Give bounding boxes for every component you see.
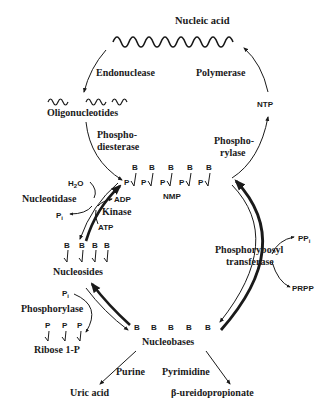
nucleoside-group: B B B B (64, 241, 110, 262)
label-phosphorylase-top-1: Phospho- (214, 135, 254, 146)
polymerase-arrow (244, 48, 268, 92)
cofactor-h2o: H2O (68, 179, 83, 189)
nucleic-acid-wave-icon (113, 37, 233, 47)
node-oligonucleotides: Oligonucleotides (47, 107, 118, 118)
label-endonuclease: Endonuclease (96, 67, 155, 78)
phosphate-symbol: P (77, 321, 83, 330)
node-ureidopropionate: β-ureidopropionate (171, 387, 254, 398)
node-nucleic-acid: Nucleic acid (175, 15, 230, 26)
node-ribose-1p: Ribose 1-P (34, 344, 80, 355)
ribose-1p-group: P P P (45, 321, 83, 341)
phosphate-symbol: P (179, 178, 185, 187)
label-kinase: Kinase (102, 206, 132, 217)
node-uric-acid: Uric acid (70, 387, 110, 398)
phosphate-symbol: P (124, 178, 130, 187)
cofactor-pi-lower: Pi (62, 289, 69, 299)
phosphate-symbol: P (198, 178, 204, 187)
base-symbol: B (64, 241, 70, 250)
base-symbol: B (92, 241, 98, 250)
base-symbol: B (151, 323, 157, 332)
nucleosides-to-nucleobases-arrow (86, 288, 128, 330)
label-nucleotidase: Nucleotidase (22, 193, 77, 204)
base-symbol: B (149, 163, 155, 172)
base-symbol: B (205, 323, 211, 332)
cofactor-atp: ATP (98, 223, 114, 232)
label-prt-2: transferase (226, 256, 274, 267)
label-polymerase: Polymerase (196, 67, 246, 78)
nucleobases-to-nucleosides-arrow (92, 284, 130, 325)
node-nucleobases: Nucleobases (142, 336, 194, 347)
base-symbol: B (168, 163, 174, 172)
cofactor-adp: ADP (114, 195, 132, 204)
label-phosphodiesterase-1: Phospho- (97, 129, 137, 140)
label-phosphorylase-top-2: rylase (220, 147, 246, 158)
label-purine: Purine (116, 366, 145, 377)
nucleotide-metabolism-diagram: Nucleic acid Endonuclease Polymerase Oli… (0, 0, 329, 415)
cofactor-prpp: PRPP (292, 284, 314, 293)
base-symbol: B (187, 163, 193, 172)
prpp-input-curve (272, 262, 290, 287)
base-symbol: B (134, 323, 140, 332)
pi-output-curve (70, 206, 92, 214)
label-pyrimidine: Pyrimidine (162, 366, 210, 377)
label-prt-1: Phosphorybosyl (215, 244, 284, 255)
label-phosphodiesterase-2: diesterase (97, 141, 140, 152)
base-symbol: B (186, 323, 192, 332)
node-ntp: NTP (257, 100, 274, 109)
base-symbol: B (132, 163, 138, 172)
nucleobase-row: B B B B B (134, 323, 211, 332)
oligo-wave-icon (112, 99, 127, 105)
phosphate-symbol: P (45, 321, 51, 330)
node-nmp: NMP (163, 192, 181, 201)
base-symbol: B (206, 163, 212, 172)
cofactor-pi-left: Pi (56, 211, 63, 221)
oligo-wave-icon (86, 99, 106, 105)
phosphate-symbol: P (141, 178, 147, 187)
label-phosphorylase: Phosphorylase (21, 303, 84, 314)
h2o-input-curve (90, 182, 95, 198)
phosphate-symbol: P (160, 178, 166, 187)
node-nucleosides: Nucleosides (53, 266, 103, 277)
base-symbol: B (168, 323, 174, 332)
cofactor-ppi: PPi (298, 234, 311, 244)
base-symbol: B (104, 241, 110, 250)
phosphate-symbol: P (62, 321, 68, 330)
nmp-chain: B P B P B P B P B P (124, 163, 212, 187)
oligo-wave-icon (48, 99, 68, 105)
base-symbol: B (79, 241, 85, 250)
